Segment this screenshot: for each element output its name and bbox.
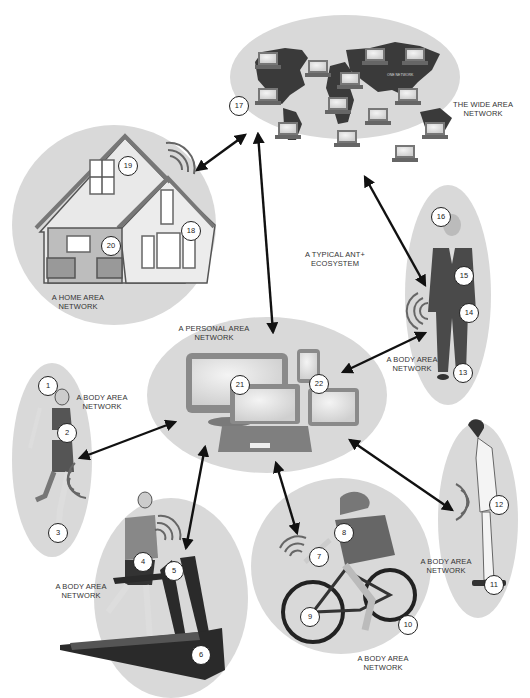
han-label: A HOME AREA NETWORK (43, 293, 113, 311)
badge-7: 7 (309, 547, 329, 567)
badge-9: 9 (300, 607, 320, 627)
badge-15: 15 (454, 266, 474, 286)
ban-treadmill-label: A BODY AREA NETWORK (51, 582, 111, 600)
badge-14: 14 (459, 303, 479, 323)
ban-cyclist-label: A BODY AREA NETWORK (353, 654, 413, 672)
ant-ecosystem-diagram: ONE NETWORK THE WIDE AREA NETWORK A HOME… (0, 0, 530, 698)
ban-runner-label: A BODY AREA NETWORK (72, 393, 132, 411)
badge-16: 16 (431, 207, 451, 227)
ecosystem-title: A TYPICAL ANT+ ECOSYSTEM (300, 250, 370, 268)
arrow-ban-pan-runner (80, 422, 175, 458)
badge-5: 5 (164, 561, 184, 581)
badge-4: 4 (133, 552, 153, 572)
arrow-han-wan (197, 135, 245, 170)
badge-13: 13 (453, 363, 473, 383)
badge-11: 11 (484, 575, 504, 595)
badge-17: 17 (229, 96, 249, 116)
wan-label: THE WIDE AREA NETWORK (443, 100, 523, 118)
ban-scale-label: A BODY AREA NETWORK (416, 557, 476, 575)
badge-1: 1 (38, 376, 58, 396)
badge-6: 6 (191, 645, 211, 665)
badge-10: 10 (398, 615, 418, 635)
arrow-pan-wan (258, 134, 273, 332)
badge-20: 20 (101, 236, 121, 256)
badge-8: 8 (334, 523, 354, 543)
badge-3: 3 (48, 523, 68, 543)
badge-22: 22 (309, 374, 329, 394)
badge-18: 18 (181, 221, 201, 241)
pan-label: A PERSONAL AREA NETWORK (174, 324, 254, 342)
badge-12: 12 (489, 495, 509, 515)
badge-2: 2 (57, 423, 77, 443)
wan-inner-label: ONE NETWORK (387, 73, 413, 77)
badge-19: 19 (118, 156, 138, 176)
ban-businessman-label: A BODY AREA NETWORK (382, 355, 442, 373)
badge-21: 21 (230, 375, 250, 395)
